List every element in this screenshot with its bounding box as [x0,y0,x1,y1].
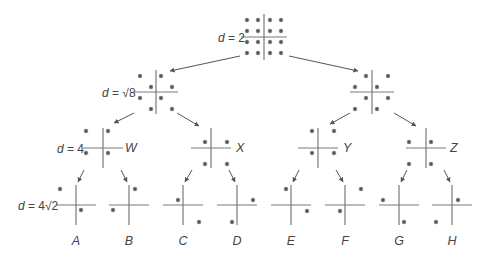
signal-point [429,162,433,166]
signal-point [268,40,272,44]
signal-point [359,187,363,191]
signal-point [245,18,249,22]
signal-point [111,208,115,212]
signal-point [170,85,174,89]
signal-point [245,29,249,33]
signal-point [332,151,336,155]
signal-point [364,74,368,78]
subset-label-C: C [178,234,188,248]
constellation-node-D [217,185,257,225]
signal-point [332,129,336,133]
subset-label-X: X [235,141,245,155]
constellation-node-Y [298,128,338,168]
arrow-L-to-W [114,113,134,123]
signal-point [203,162,207,166]
signal-point [149,107,153,111]
constellation-node-E [271,185,311,225]
signal-point [386,96,390,100]
subset-label-A: A [71,234,80,248]
constellation-node-R [350,70,394,114]
arrow-root-to-L [170,56,240,71]
signal-point [279,29,283,33]
signal-point [138,74,142,78]
signal-point [279,40,283,44]
signal-point [256,18,260,22]
constellation-node-L [134,70,178,114]
signal-point [407,162,411,166]
arrow-X-to-D [229,170,235,182]
signal-point [279,51,283,55]
signal-point [245,51,249,55]
constellation-node-H [432,185,472,225]
signal-point [268,18,272,22]
set-partition-tree-diagram: d = 2d = √8d = 4d = 4√2 WXYZABCDEFGH [0,0,491,260]
signal-point [138,96,142,100]
signal-point [268,51,272,55]
signal-point [407,140,411,144]
signal-point [106,129,110,133]
signal-point [375,107,379,111]
signal-point [225,140,229,144]
signal-point [84,151,88,155]
tree-nodes [56,14,472,225]
subset-label-D: D [232,234,241,248]
arrow-root-to-R [289,56,358,71]
signal-point [386,74,390,78]
signal-point [375,85,379,89]
arrow-Y-to-F [336,170,343,182]
signal-point [256,29,260,33]
constellation-node-A [56,185,96,225]
signal-point [225,162,229,166]
distance-label-level-3: d = 4√2 [18,199,59,213]
constellation-node-G [379,185,419,225]
signal-point [456,198,460,202]
signal-point [429,140,433,144]
signal-point [338,209,342,213]
arrow-Z-to-H [444,170,450,182]
arrow-Y-to-E [293,170,299,182]
signal-point [176,198,180,202]
subset-label-G: G [394,234,404,248]
constellation-node-W [83,128,123,168]
signal-point [284,187,288,191]
constellation-node-root [241,14,287,60]
subset-label-H: H [447,234,457,248]
distance-label-level-1: d = √8 [102,86,136,100]
arrow-W-to-A [78,170,84,182]
constellation-node-Z [406,128,446,168]
signal-point [133,187,137,191]
signal-point [256,51,260,55]
arrow-R-to-Z [394,113,416,126]
distance-labels: d = 2d = √8d = 4d = 4√2 [18,31,245,213]
signal-point [149,85,153,89]
arrow-L-to-X [177,113,199,126]
signal-point [230,220,234,224]
subset-label-B: B [125,234,133,248]
subset-label-F: F [341,234,350,248]
distance-label-level-0: d = 2 [218,31,245,45]
constellation-node-F [325,185,365,225]
signal-point [159,74,163,78]
subset-label-Z: Z [449,141,458,155]
signal-point [434,220,438,224]
constellation-node-C [163,185,203,225]
signal-point [79,208,83,212]
signal-point [353,85,357,89]
signal-point [84,129,88,133]
signal-point [305,209,309,213]
signal-point [310,129,314,133]
signal-point [245,40,249,44]
signal-point [106,151,110,155]
signal-point [197,220,201,224]
subset-label-E: E [287,234,296,248]
arrow-W-to-B [121,170,127,182]
signal-point [251,198,255,202]
signal-point [364,96,368,100]
signal-point [159,96,163,100]
signal-point [353,107,357,111]
signal-point [170,107,174,111]
constellation-node-X [191,128,231,168]
arrow-R-to-Y [330,113,350,124]
tree-edges [78,56,450,182]
signal-point [58,187,62,191]
